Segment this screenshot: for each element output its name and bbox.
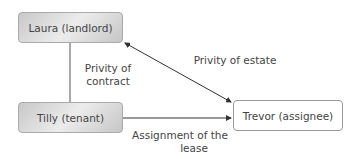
estate-label-text: Privity of estate <box>194 54 277 66</box>
contract-label-line1: Privity of <box>72 62 144 75</box>
tenant-label: Tilly (tenant) <box>37 112 104 124</box>
estate-edge-label: Privity of estate <box>180 54 290 67</box>
landlord-node: Laura (landlord) <box>18 12 123 43</box>
assignee-node: Trevor (assignee) <box>233 100 343 131</box>
assignment-edge-label: Assignment of the lease <box>125 129 235 155</box>
assignment-label-line2: lease <box>125 142 235 155</box>
contract-label-line2: contract <box>72 75 144 88</box>
landlord-label: Laura (landlord) <box>28 22 112 34</box>
contract-edge-label: Privity of contract <box>72 62 144 88</box>
assignment-label-line1: Assignment of the <box>125 129 235 142</box>
tenant-node: Tilly (tenant) <box>18 102 123 133</box>
assignee-label: Trevor (assignee) <box>243 110 333 122</box>
